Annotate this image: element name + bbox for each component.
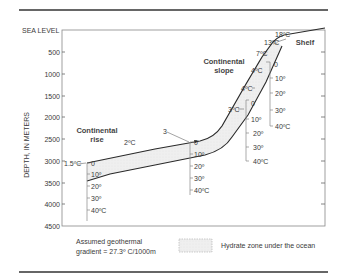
svg-text:20º: 20º (275, 90, 286, 97)
svg-text:1500: 1500 (44, 93, 60, 100)
svg-text:3: 3 (163, 128, 167, 135)
gradient-note: Assumed geothermal (76, 238, 143, 246)
svg-text:30º: 30º (253, 144, 264, 151)
svg-text:10º: 10º (91, 171, 102, 178)
svg-text:40ºC: 40ºC (194, 187, 209, 194)
gradient-scale-upper-slope: 0 10º 20º 30º 40ºC (266, 61, 290, 130)
svg-text:13ºC: 13ºC (264, 39, 279, 46)
svg-text:0: 0 (91, 160, 95, 167)
hydrate-zone-diagram: SEA LEVEL 500 1000 1500 2000 2500 3000 3… (0, 0, 341, 278)
hydrate-legend-label: Hydrate zone under the ocean (221, 242, 315, 250)
y-axis-label: DEPTH, IN METERS (23, 112, 30, 178)
svg-text:0: 0 (251, 100, 255, 107)
svg-text:2ºC: 2ºC (124, 139, 136, 146)
svg-text:0: 0 (194, 139, 198, 146)
svg-text:30º: 30º (194, 175, 205, 182)
svg-text:4000: 4000 (44, 201, 60, 208)
svg-text:4ºC: 4ºC (241, 85, 253, 92)
svg-text:1000: 1000 (44, 71, 60, 78)
svg-text:30º: 30º (275, 107, 286, 114)
svg-text:rise: rise (90, 135, 103, 144)
svg-text:4500: 4500 (44, 223, 60, 230)
y-axis-ticks-right (321, 52, 325, 204)
svg-text:20º: 20º (253, 130, 264, 137)
svg-text:3ºC: 3ºC (228, 106, 240, 113)
svg-text:gradient = 27.3º C/1000m: gradient = 27.3º C/1000m (76, 248, 156, 256)
svg-text:40ºC: 40ºC (275, 123, 290, 130)
svg-text:7ºC: 7ºC (256, 50, 268, 57)
y-tick-labels: 500 1000 1500 2000 2500 3000 3500 4000 4… (44, 49, 60, 230)
svg-text:500: 500 (48, 49, 60, 56)
svg-text:slope: slope (214, 66, 234, 75)
sea-level-label: SEA LEVEL (22, 27, 59, 34)
svg-text:10º: 10º (194, 151, 205, 158)
svg-text:2500: 2500 (44, 136, 60, 143)
svg-text:20º: 20º (194, 163, 205, 170)
svg-text:2000: 2000 (44, 114, 60, 121)
svg-text:3500: 3500 (44, 180, 60, 187)
hydrate-legend-swatch (179, 239, 212, 252)
svg-text:10º: 10º (251, 116, 262, 123)
continental-rise-label: Continental (76, 126, 117, 135)
svg-text:10º: 10º (275, 75, 286, 82)
svg-text:0: 0 (274, 61, 278, 68)
y-axis-ticks-left (62, 52, 65, 204)
svg-text:40ºC: 40ºC (253, 158, 268, 165)
svg-text:40ºC: 40ºC (91, 207, 106, 214)
continental-slope-label: Continental (203, 57, 244, 66)
legend: Assumed geothermal gradient = 27.3º C/10… (76, 238, 315, 256)
svg-text:30º: 30º (91, 195, 102, 202)
svg-text:1.5ºC: 1.5ºC (64, 160, 81, 167)
shelf-label: Shelf (296, 38, 315, 47)
svg-text:4ºC: 4ºC (251, 67, 263, 74)
svg-text:18ºC: 18ºC (275, 31, 290, 38)
svg-text:3000: 3000 (44, 158, 60, 165)
svg-text:20º: 20º (91, 183, 102, 190)
